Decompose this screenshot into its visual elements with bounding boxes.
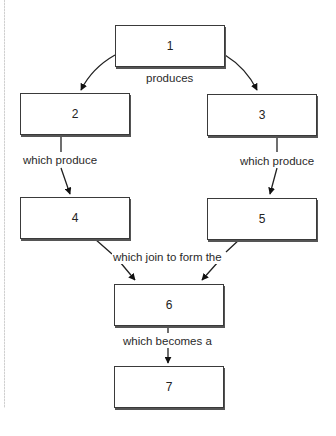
- edge-label-becomes: which becomes a: [122, 334, 213, 348]
- node-3-label: 3: [259, 108, 266, 122]
- node-4: 4: [20, 197, 130, 239]
- node-6-label: 6: [166, 298, 173, 312]
- node-7: 7: [114, 366, 224, 408]
- node-4-label: 4: [72, 211, 79, 225]
- node-5: 5: [207, 198, 317, 240]
- edge-label-produces: produces: [145, 71, 194, 85]
- node-6: 6: [114, 284, 224, 326]
- node-2: 2: [20, 93, 130, 135]
- arrow-1-to-3: [225, 55, 257, 90]
- edge-label-join: which join to form the: [112, 250, 223, 264]
- edge-label-right-produce: which produce: [239, 154, 315, 168]
- node-5-label: 5: [259, 212, 266, 226]
- node-1-label: 1: [167, 39, 174, 53]
- node-1: 1: [115, 25, 225, 67]
- node-2-label: 2: [72, 107, 79, 121]
- edge-label-left-produce: which produce: [22, 153, 98, 167]
- node-7-label: 7: [166, 380, 173, 394]
- arrow-1-to-2: [81, 55, 115, 90]
- node-3: 3: [207, 94, 317, 136]
